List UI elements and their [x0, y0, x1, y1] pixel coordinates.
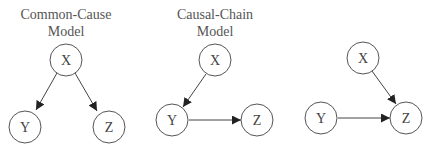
diagram-title-line1: Causal-Chain: [177, 7, 253, 22]
node-y-label: Y: [316, 111, 326, 126]
edge-x-to-y: [36, 73, 57, 110]
node-x-label: X: [210, 53, 220, 68]
edge-x-to-z: [75, 73, 97, 111]
node-x-label: X: [61, 53, 71, 68]
causal-chain-model: Causal-Chain Model X Y Z: [156, 7, 273, 136]
causal-models-figure: Common-Cause Model X Y Z Causal-Chain Mo…: [0, 0, 436, 148]
diagram-title-line2: Model: [48, 24, 85, 39]
node-z-label: Z: [253, 113, 262, 128]
node-x-label: X: [358, 51, 368, 66]
node-y-label: Y: [167, 113, 177, 128]
diagram-title-line1: Common-Cause: [21, 7, 112, 22]
common-cause-model: Common-Cause Model X Y Z: [9, 7, 125, 143]
node-y-label: Y: [20, 120, 30, 135]
diagram-title-line2: Model: [197, 24, 234, 39]
edge-x-to-y: [183, 74, 206, 107]
node-z-label: Z: [105, 120, 114, 135]
edge-x-to-z: [372, 71, 396, 104]
node-z-label: Z: [402, 111, 411, 126]
common-effect-model: X Y Z: [305, 42, 422, 134]
